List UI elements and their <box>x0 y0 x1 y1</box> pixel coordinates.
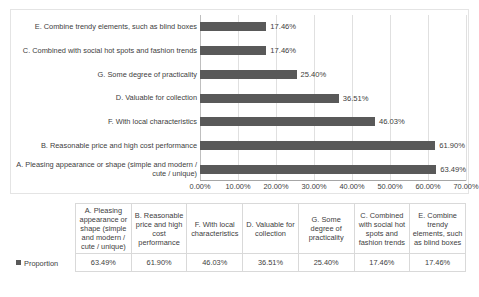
series-legend-label: Proportion <box>24 258 58 267</box>
table-cell-value: 63.49% <box>76 254 132 272</box>
table-column-header: D. Valuable for collection <box>243 204 299 254</box>
bar-value-label: 17.46% <box>270 22 296 31</box>
category-label: C. Combined with social hot spots and fa… <box>13 39 199 63</box>
x-axis-tick-label: 50.00% <box>377 182 402 191</box>
x-axis-tick-label: 60.00% <box>415 182 440 191</box>
plot-wrapper: E. Combine trendy elements, such as blin… <box>11 10 468 193</box>
series-legend-cell: Proportion <box>14 254 76 272</box>
bar-row: 46.03% <box>200 110 466 134</box>
category-label: A. Pleasing appearance or shape (simple … <box>13 157 199 181</box>
x-axis-tick-label: 70.00% <box>453 182 478 191</box>
table-column-header: E. Combine trendy elements, such as blin… <box>410 204 466 254</box>
table-cell-value: 46.03% <box>187 254 243 272</box>
table-corner-cell <box>14 204 76 254</box>
category-label-text: D. Valuable for collection <box>116 93 197 102</box>
bar <box>200 94 339 103</box>
table-column-header: A. Pleasing appearance or shape (simple … <box>76 204 132 254</box>
x-axis-tick-label: 0.00% <box>190 182 211 191</box>
table-column-header: B. Reasonable price and high cost perfor… <box>131 204 187 254</box>
bar-row: 25.40% <box>200 62 466 86</box>
category-label-text: A. Pleasing appearance or shape (simple … <box>13 160 197 179</box>
bar-value-label: 61.90% <box>439 141 465 150</box>
bar-value-label: 17.46% <box>270 46 296 55</box>
bar-row: 17.46% <box>200 39 466 63</box>
bar <box>200 165 436 174</box>
bar <box>200 141 435 150</box>
table-cell-value: 61.90% <box>131 254 187 272</box>
category-label: B. Reasonable price and high cost perfor… <box>13 134 199 158</box>
category-label: E. Combine trendy elements, such as blin… <box>13 15 199 39</box>
bar <box>200 117 375 126</box>
bar-row: 61.90% <box>200 134 466 158</box>
table-cell-value: 17.46% <box>354 254 410 272</box>
table-column-header: F. With local characteristics <box>187 204 243 254</box>
table-column-header: C. Combined with social hot spots and fa… <box>354 204 410 254</box>
category-label-text: F. With local characteristics <box>108 117 197 126</box>
table-row: Proportion 63.49%61.90%46.03%36.51%25.40… <box>14 254 466 272</box>
category-axis-labels: E. Combine trendy elements, such as blin… <box>13 15 199 181</box>
table-cell-value: 25.40% <box>298 254 354 272</box>
category-label: F. With local characteristics <box>13 110 199 134</box>
table-column-header: G. Some degree of practicality <box>298 204 354 254</box>
bar-value-label: 25.40% <box>301 70 327 79</box>
chart-data-table: A. Pleasing appearance or shape (simple … <box>14 203 466 272</box>
category-label-text: E. Combine trendy elements, such as blin… <box>35 22 197 31</box>
category-label: D. Valuable for collection <box>13 86 199 110</box>
gridline <box>466 15 467 181</box>
x-axis-tick-label: 10.00% <box>225 182 250 191</box>
plot-area: 17.46%17.46%25.40%36.51%46.03%61.90%63.4… <box>200 15 466 181</box>
bar-series: 17.46%17.46%25.40%36.51%46.03%61.90%63.4… <box>200 15 466 181</box>
bar-row: 63.49% <box>200 157 466 181</box>
category-label: G. Some degree of practicality <box>13 62 199 86</box>
bar <box>200 22 266 31</box>
category-label-text: B. Reasonable price and high cost perfor… <box>41 141 197 150</box>
bar <box>200 46 266 55</box>
table-cell-value: 17.46% <box>410 254 466 272</box>
table-cell-value: 36.51% <box>243 254 299 272</box>
x-axis-tick-label: 30.00% <box>301 182 326 191</box>
table-header-row: A. Pleasing appearance or shape (simple … <box>14 204 466 254</box>
bar-value-label: 63.49% <box>440 165 466 174</box>
bar <box>200 70 297 79</box>
bar-chart-panel: E. Combine trendy elements, such as blin… <box>10 9 469 194</box>
bar-row: 36.51% <box>200 86 466 110</box>
bar-value-label: 46.03% <box>379 117 405 126</box>
category-label-text: C. Combined with social hot spots and fa… <box>23 46 197 55</box>
x-axis-tick-label: 40.00% <box>339 182 364 191</box>
x-axis-tick-labels: 0.00%10.00%20.00%30.00%40.00%50.00%60.00… <box>200 182 466 194</box>
bar-value-label: 36.51% <box>343 94 369 103</box>
x-axis-tick-label: 20.00% <box>263 182 288 191</box>
category-label-text: G. Some degree of practicality <box>98 70 197 79</box>
legend-swatch-icon <box>16 260 21 265</box>
bar-row: 17.46% <box>200 15 466 39</box>
